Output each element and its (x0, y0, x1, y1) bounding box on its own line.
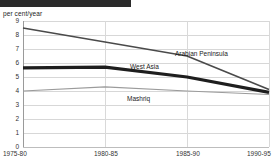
y-axis-unit-label: per cent/year (3, 10, 42, 17)
y-tick-label-7: 7 (1, 45, 19, 52)
series-line-mashriq (23, 87, 269, 95)
series-label-mashriq: Mashriq (127, 95, 150, 102)
gridline-0 (23, 147, 269, 148)
x-tick-label-1975-80: 1975-80 (3, 150, 27, 157)
redacted-title-bar (0, 0, 131, 7)
y-tick-label-5: 5 (1, 73, 19, 80)
y-tick-label-3: 3 (1, 101, 19, 108)
x-tick-label-1990-95: 1990-95 (247, 150, 271, 157)
x-tick-label-1985-90: 1985-90 (176, 150, 200, 157)
y-tick-label-0: 0 (1, 143, 19, 150)
series-line-arabian-peninsula (23, 28, 269, 90)
y-tick-label-4: 4 (1, 87, 19, 94)
y-tick-label-9: 9 (1, 17, 19, 24)
growth-rate-line-chart: per cent/year 0123456789 1975-801980-851… (0, 0, 278, 163)
vgridline-1990-95 (269, 21, 270, 147)
series-label-west-asia: West Asia (130, 63, 159, 70)
series-lines (23, 21, 269, 147)
plot-area: 0123456789 1975-801980-851985-901990-95 … (23, 21, 269, 147)
y-tick-label-1: 1 (1, 129, 19, 136)
x-tick-label-1980-85: 1980-85 (94, 150, 118, 157)
series-label-arabian-peninsula: Arabian Peninsula (175, 50, 228, 57)
y-tick-label-2: 2 (1, 115, 19, 122)
y-tick-label-8: 8 (1, 31, 19, 38)
y-tick-label-6: 6 (1, 59, 19, 66)
